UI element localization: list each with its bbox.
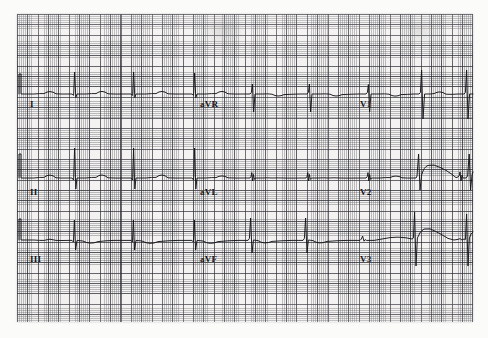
lead-label-v3: V3: [360, 254, 371, 264]
lead-label-avr: aVR: [200, 99, 218, 109]
lead-label-avl: aVL: [200, 187, 218, 197]
lead-label-ii: II: [30, 187, 37, 197]
lead-label-v2: V2: [360, 187, 371, 197]
ecg-trace-row-2: [19, 148, 473, 190]
ecg-trace-row-1: [19, 70, 473, 119]
lead-label-avf: aVF: [200, 254, 217, 264]
ecg-trace-layer: [0, 0, 488, 338]
lead-label-v1: V1: [360, 99, 371, 109]
lead-label-iii: III: [30, 254, 41, 264]
lead-label-i: I: [30, 99, 34, 109]
ecg-trace-row-3: [19, 212, 473, 266]
ecg-scan-page: IaVRV1IIaVLV2IIIaVFV3: [0, 0, 488, 338]
